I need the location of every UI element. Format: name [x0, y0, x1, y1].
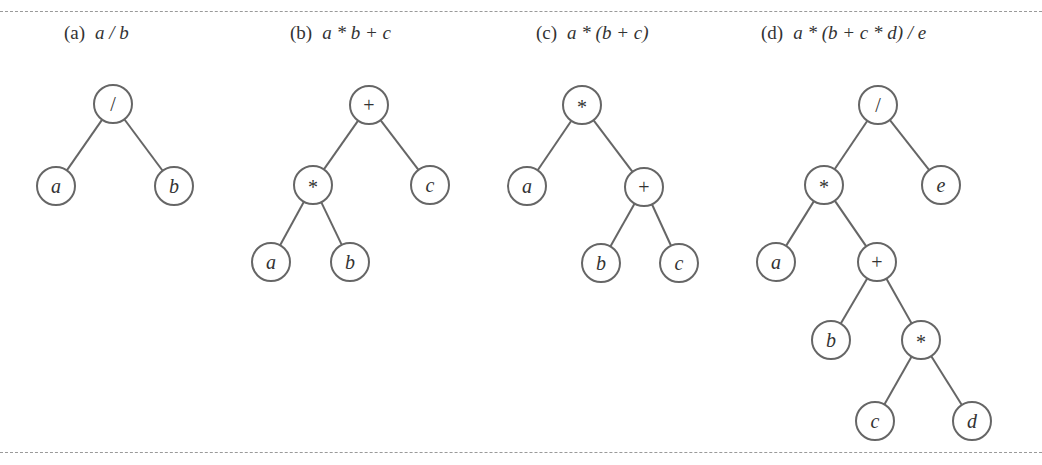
tree-edge	[67, 120, 102, 171]
operand-node: b	[155, 167, 193, 205]
tree-edge	[280, 202, 304, 246]
operand-node: c	[660, 244, 698, 282]
operand-node: b	[582, 244, 620, 282]
svg-text:b: b	[826, 329, 836, 351]
operator-node: /	[859, 86, 897, 124]
tree-edge	[538, 121, 572, 171]
svg-text:+: +	[363, 94, 374, 116]
operator-node: /	[94, 85, 132, 123]
operand-node: b	[331, 243, 369, 281]
operator-node: *	[563, 86, 601, 124]
tree-edge	[841, 278, 868, 323]
svg-text:c: c	[871, 410, 880, 432]
operand-node: c	[856, 402, 894, 440]
tree-edge	[835, 121, 868, 170]
svg-text:d: d	[967, 410, 978, 432]
svg-text:*: *	[916, 331, 926, 353]
tree-edge	[381, 120, 419, 170]
svg-text:+: +	[638, 176, 649, 198]
operator-node: *	[902, 321, 940, 359]
tree-edge	[835, 201, 866, 247]
operator-node: +	[350, 86, 388, 124]
svg-text:*: *	[308, 176, 318, 198]
expression-trees-diagram: /ab+*cab*a+bc/*ea+b*cd	[0, 0, 1042, 465]
operand-node: a	[252, 243, 290, 281]
svg-text:e: e	[937, 174, 946, 196]
svg-text:a: a	[771, 251, 781, 273]
svg-text:*: *	[819, 176, 829, 198]
svg-text:b: b	[596, 252, 606, 274]
operand-node: a	[757, 243, 795, 281]
tree-panel-c: *a+bc	[508, 86, 698, 282]
tree-edge	[884, 357, 911, 405]
svg-text:+: +	[871, 251, 882, 273]
operand-node: e	[922, 166, 960, 204]
tree-panel-a: /ab	[37, 85, 193, 205]
tree-edge	[321, 202, 342, 245]
tree-edge	[593, 120, 632, 172]
tree-edge	[324, 121, 358, 170]
tree-edge	[786, 201, 814, 246]
svg-text:b: b	[169, 175, 179, 197]
tree-edge	[124, 119, 162, 171]
bottom-separator-rule	[0, 452, 1042, 453]
svg-text:/: /	[110, 93, 116, 115]
tree-edge	[931, 356, 962, 405]
operand-node: d	[953, 402, 991, 440]
operator-node: +	[625, 168, 663, 206]
svg-text:c: c	[675, 252, 684, 274]
tree-edge	[610, 204, 634, 247]
operator-node: *	[294, 166, 332, 204]
svg-text:/: /	[875, 94, 881, 116]
svg-text:b: b	[345, 251, 355, 273]
tree-edge	[652, 204, 671, 245]
svg-text:a: a	[51, 175, 61, 197]
svg-text:a: a	[266, 251, 276, 273]
operand-node: a	[508, 167, 546, 205]
svg-text:*: *	[577, 96, 587, 118]
tree-edge	[890, 120, 929, 170]
operator-node: *	[805, 166, 843, 204]
operand-node: a	[37, 167, 75, 205]
operand-node: c	[411, 166, 449, 204]
svg-text:c: c	[426, 174, 435, 196]
tree-panel-d: /*ea+b*cd	[757, 86, 991, 440]
operand-node: b	[812, 321, 850, 359]
operator-node: +	[858, 243, 896, 281]
tree-edge	[886, 279, 911, 324]
tree-panel-b: +*cab	[252, 86, 449, 281]
svg-text:a: a	[522, 175, 532, 197]
